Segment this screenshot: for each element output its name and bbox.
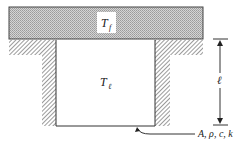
properties-leader: A, ρ, c, k [135,127,233,139]
right-wall-hatch [155,40,203,126]
top-slab-temperature-label: T f [97,12,116,33]
properties-label: A, ρ, c, k [197,128,233,139]
left-wall-hatch [9,40,56,126]
fin-cavity-diagram: T f T ℓ ℓ A, ρ, c, k [0,0,246,146]
arrow-up-icon [217,40,223,46]
arrow-down-icon [217,118,223,124]
length-dimension: ℓ [213,39,228,125]
length-label: ℓ [217,74,222,86]
